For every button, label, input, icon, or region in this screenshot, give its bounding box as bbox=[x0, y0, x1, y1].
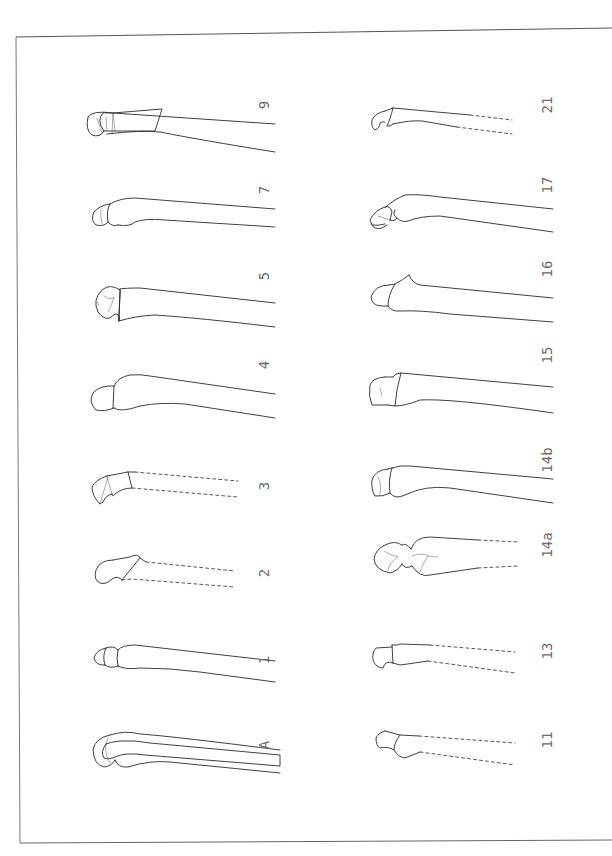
figure-label-4: 4 bbox=[257, 345, 273, 385]
bone-figure-17 bbox=[370, 195, 553, 232]
bone-figure-9 bbox=[87, 109, 275, 152]
drawing-plate bbox=[0, 0, 612, 856]
figure-label-2: 2 bbox=[257, 553, 273, 593]
figure-label-14b: 14b bbox=[540, 440, 556, 480]
figure-label-15: 15 bbox=[540, 335, 556, 375]
bone-figure-4 bbox=[91, 375, 275, 418]
bone-figure-16 bbox=[371, 275, 553, 322]
bone-figure-11 bbox=[376, 731, 515, 765]
bone-figure-3 bbox=[92, 472, 238, 504]
bone-figure-A bbox=[93, 732, 280, 773]
figure-label-16: 16 bbox=[540, 249, 556, 289]
plate-frame bbox=[16, 28, 612, 843]
bone-figure-7 bbox=[92, 198, 275, 227]
bone-figure-21 bbox=[372, 108, 512, 134]
figure-label-17: 17 bbox=[540, 165, 556, 205]
bone-figure-14a bbox=[374, 537, 518, 576]
figure-label-A: A bbox=[257, 725, 273, 765]
bone-figure-2 bbox=[95, 555, 235, 587]
figure-label-5: 5 bbox=[257, 256, 273, 296]
figure-label-3: 3 bbox=[257, 466, 273, 506]
figure-label-11: 11 bbox=[540, 720, 556, 760]
figure-label-9: 9 bbox=[257, 85, 273, 125]
bone-figure-13 bbox=[373, 644, 515, 673]
bone-figure-14b bbox=[372, 466, 553, 503]
figure-label-14a: 14a bbox=[540, 525, 556, 565]
bone-figure-1 bbox=[94, 645, 275, 682]
figure-label-21: 21 bbox=[540, 85, 556, 125]
bone-figure-15 bbox=[369, 373, 553, 413]
figure-label-1: 1 bbox=[257, 640, 273, 680]
bone-figure-5 bbox=[96, 287, 275, 328]
figure-label-7: 7 bbox=[257, 170, 273, 210]
figure-label-13: 13 bbox=[540, 631, 556, 671]
